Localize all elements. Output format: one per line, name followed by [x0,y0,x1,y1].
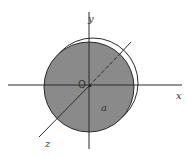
origin-point [89,85,92,88]
y-axis-label: y [87,13,94,24]
x-axis-label: x [176,90,182,101]
z-axis-label: z [44,138,51,149]
origin-label: O [78,79,86,90]
radius-label: a [101,102,107,113]
disk-coordinate-diagram: y x z O a [0,0,196,158]
